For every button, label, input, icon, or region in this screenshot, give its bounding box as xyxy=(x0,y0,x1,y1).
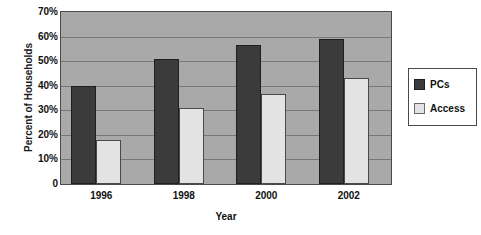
y-tick-label: 40% xyxy=(18,81,58,91)
legend-label: Access xyxy=(430,103,465,114)
plot-area xyxy=(60,11,392,185)
y-tick-label: 20% xyxy=(18,130,58,140)
y-axis-tick-labels: 70% 60% 50% 40% 30% 20% 10% 0 xyxy=(14,0,58,235)
legend-swatch-access-icon xyxy=(414,103,425,114)
x-tick-label: 1996 xyxy=(71,190,131,201)
x-axis-title: Year xyxy=(60,211,392,222)
x-tick-label: 1998 xyxy=(154,190,214,201)
legend: PCs Access xyxy=(408,68,477,126)
legend-item-access: Access xyxy=(414,101,465,115)
bar-access-2002 xyxy=(344,78,369,184)
bar-group xyxy=(226,12,309,184)
bar-group xyxy=(144,12,227,184)
bar-pcs-1998 xyxy=(154,59,179,184)
legend-swatch-pcs-icon xyxy=(414,79,425,90)
y-tick-label: 60% xyxy=(18,32,58,42)
bar-access-2000 xyxy=(261,94,286,184)
bar-access-1996 xyxy=(96,140,121,184)
bar-pcs-1996 xyxy=(71,86,96,184)
bar-chart: Percent of Households 70% 60% 50% 40% 30… xyxy=(0,0,481,235)
legend-item-pcs: PCs xyxy=(414,77,449,91)
bar-access-1998 xyxy=(179,108,204,184)
x-tick-label: 2000 xyxy=(236,190,296,201)
y-tick-label: 30% xyxy=(18,105,58,115)
bar-pcs-2002 xyxy=(319,39,344,184)
y-tick-label: 10% xyxy=(18,154,58,164)
legend-label: PCs xyxy=(430,79,449,90)
y-tick-label: 70% xyxy=(18,7,58,17)
bar-pcs-2000 xyxy=(236,45,261,184)
bar-group xyxy=(309,12,392,184)
y-tick-label: 0 xyxy=(18,179,58,189)
y-tick-label: 50% xyxy=(18,56,58,66)
bars-layer xyxy=(61,12,391,184)
x-tick-label: 2002 xyxy=(319,190,379,201)
bar-group xyxy=(61,12,144,184)
